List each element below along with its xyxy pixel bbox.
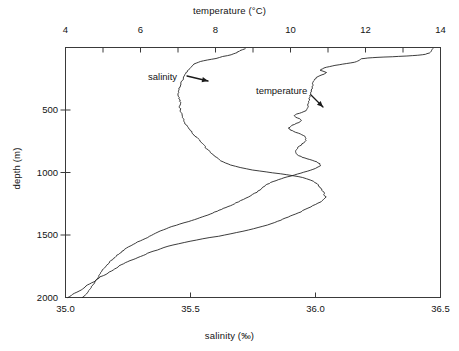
depth-tick-label: 1500 xyxy=(18,229,58,240)
plot-canvas xyxy=(0,0,459,351)
temperature-tick-label: 14 xyxy=(421,24,459,35)
temperature-tick-label: 4 xyxy=(46,24,86,35)
salinity-tick-label: 36.5 xyxy=(418,303,459,314)
salinity-tick-label: 35.0 xyxy=(43,303,89,314)
temperature-profile-curve xyxy=(82,49,433,298)
oceanographic-profile-figure: temperature (°C) salinity (‰) depth (m) … xyxy=(0,0,459,351)
depth-tick-label: 2000 xyxy=(18,292,58,303)
salinity-tick-label: 35.5 xyxy=(168,303,214,314)
salinity-profile-curve xyxy=(68,49,326,298)
depth-tick-label: 500 xyxy=(18,104,58,115)
temperature-tick-label: 6 xyxy=(121,24,161,35)
temperature-tick-label: 12 xyxy=(346,24,386,35)
temperature-annotation-arrow xyxy=(311,95,323,107)
salinity-annotation-arrow xyxy=(187,76,208,82)
depth-tick-label: 1000 xyxy=(18,167,58,178)
temperature-tick-label: 10 xyxy=(271,24,311,35)
data-curves xyxy=(68,49,433,298)
salinity-tick-label: 36.0 xyxy=(293,303,339,314)
temperature-tick-label: 8 xyxy=(196,24,236,35)
annotation-arrows xyxy=(187,76,323,107)
plot-frame xyxy=(66,48,441,298)
